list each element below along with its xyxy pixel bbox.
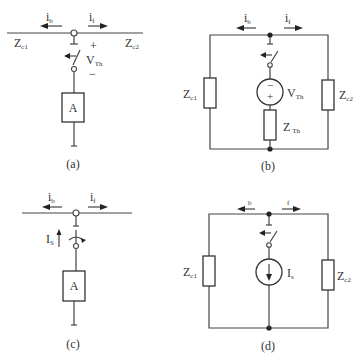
caption-d: (d): [261, 339, 275, 353]
switch: [64, 36, 80, 72]
label-plus: +: [90, 39, 97, 53]
panel-d: b f Zc1 Zc2 Is (d): [183, 199, 351, 353]
label-box-a: A: [70, 279, 79, 293]
label-is: IS: [46, 232, 54, 247]
label-zth: ZTh: [283, 120, 301, 135]
node-open: [71, 30, 77, 36]
caption-c: (c): [66, 337, 79, 351]
label-zc2: Zc2: [337, 269, 351, 284]
panel-c: ib if IS A (c): [22, 190, 132, 351]
source-plus: +: [267, 90, 273, 102]
node-top: [267, 32, 272, 37]
caption-a: (a): [66, 157, 79, 171]
arrow-is: [57, 229, 62, 247]
label-zc1: Zc1: [14, 36, 28, 51]
label-vth: VTh: [287, 86, 304, 101]
arrow-if: [282, 206, 301, 212]
switch: [259, 216, 277, 247]
switch: [69, 216, 86, 249]
label-ib: ib: [48, 190, 55, 205]
node-top: [266, 211, 271, 216]
label-if: if: [90, 190, 96, 205]
impedance-zth: [264, 110, 276, 140]
label-zc2: Zc2: [125, 36, 139, 51]
panel-a: ib if Zc1 Zc2 + VTh − A (a): [7, 10, 143, 171]
node-open: [73, 210, 79, 216]
arrow-ib: [237, 206, 255, 212]
impedance-zc1: [204, 78, 216, 108]
arrow-ib: [236, 25, 256, 31]
label-is: Is: [287, 266, 294, 281]
caption-b: (b): [261, 159, 275, 173]
arrow-if: [88, 204, 108, 210]
label-if: if: [285, 11, 291, 26]
label-zc1: Zc1: [183, 265, 197, 280]
impedance-zc2: [322, 260, 334, 290]
switch: [260, 37, 278, 67]
label-ib: ib: [244, 11, 251, 26]
top-rail: [210, 35, 328, 80]
label-ib: b: [248, 199, 252, 207]
label-vth: VTh: [86, 53, 103, 68]
impedance-zc2: [322, 80, 334, 110]
panel-b: ib if Zc1 Zc2 − + VTh ZTh: [183, 11, 353, 173]
circuit-diagram: ib if Zc1 Zc2 + VTh − A (a): [0, 0, 362, 364]
label-box-a: A: [69, 101, 78, 115]
arrow-if: [284, 25, 303, 31]
label-zc2: Zc2: [339, 88, 353, 103]
label-if: if: [89, 10, 95, 25]
impedance-zc1: [203, 256, 215, 286]
label-minus: −: [89, 67, 96, 81]
label-zc1: Zc1: [183, 87, 197, 102]
label-ib: ib: [46, 10, 53, 25]
label-if: f: [287, 199, 290, 207]
